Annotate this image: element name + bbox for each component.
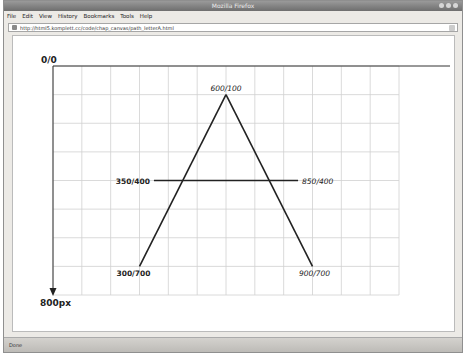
title-bar: Mozilla Firefox: [4, 1, 462, 11]
origin-label: 0/0: [41, 55, 57, 65]
status-text: Done: [9, 342, 22, 348]
minimize-button[interactable]: [439, 3, 444, 8]
point-label: 300/700: [116, 269, 150, 278]
y-axis-label: 800px: [40, 298, 71, 308]
point-label: 850/400: [302, 177, 333, 186]
point-label: 600/100: [210, 84, 241, 93]
axes: [50, 63, 451, 297]
status-bar: Done: [4, 337, 462, 352]
point-label: 900/700: [299, 269, 330, 278]
menu-view[interactable]: View: [39, 12, 52, 21]
maximize-button[interactable]: [446, 3, 451, 8]
window-title: Mozilla Firefox: [4, 1, 462, 11]
menu-bookmarks[interactable]: Bookmarks: [84, 12, 115, 21]
canvas: 0/0 1200px 800px 600/100300/700900/70035…: [10, 42, 450, 326]
window-controls: [439, 3, 458, 8]
url-input[interactable]: [20, 24, 449, 31]
page-icon: [12, 25, 17, 30]
menu-edit[interactable]: Edit: [22, 12, 33, 21]
point-label: 350/400: [116, 177, 150, 186]
menu-history[interactable]: History: [58, 12, 78, 21]
menu-help[interactable]: Help: [140, 12, 153, 21]
menu-bar: File Edit View History Bookmarks Tools H…: [7, 12, 152, 21]
close-button[interactable]: [453, 3, 458, 8]
url-bar: [8, 23, 458, 32]
dropdown-icon[interactable]: [449, 25, 455, 31]
menu-tools[interactable]: Tools: [120, 12, 134, 21]
menu-file[interactable]: File: [7, 12, 16, 21]
